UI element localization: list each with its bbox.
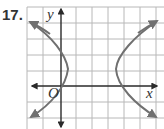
x-axis-label: x: [145, 85, 153, 101]
grid: [27, 7, 164, 129]
hyperbola-graph: y x O: [0, 0, 164, 129]
y-axis-label: y: [45, 6, 54, 22]
left-branch-curve: [31, 23, 68, 117]
origin-label: O: [48, 85, 59, 101]
right-branch-curve: [116, 22, 156, 117]
left-branch-curve-top: [30, 22, 50, 34]
